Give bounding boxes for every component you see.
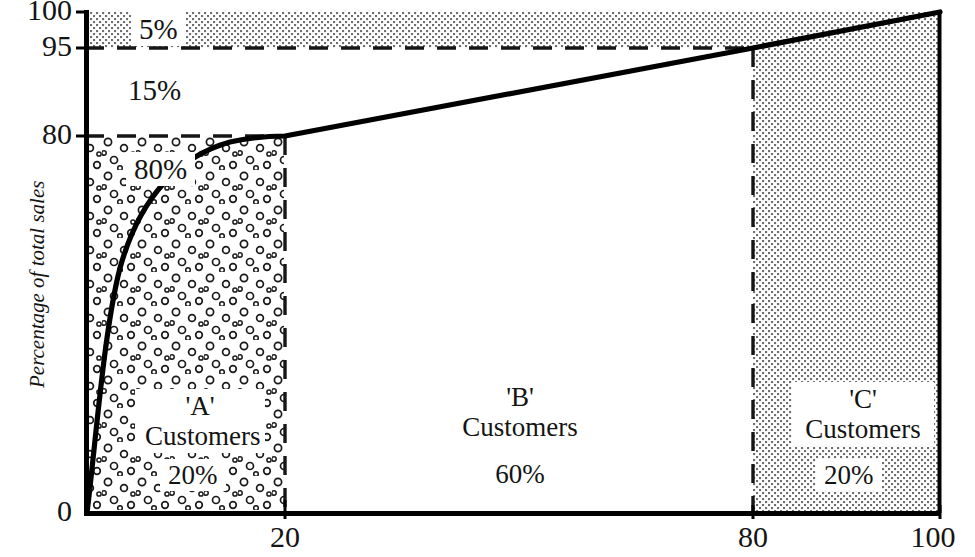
segment-b-kind: Customers [455,412,585,442]
segment-a-name: 'A' [145,391,255,421]
segment-a-share: 20% [160,459,226,491]
y-tick-label-0: 0 [0,494,72,528]
y-axis-title: Percentage of total sales [26,181,50,388]
band-top-label: 5% [131,12,186,46]
segment-b-label: 'B' Customers [455,382,585,442]
x-tick-label-100: 100 [893,520,973,554]
segment-b-share: 60% [455,459,585,489]
x-tick-label-20: 20 [245,520,325,554]
y-tick-label-100: 100 [0,0,72,27]
x-tick-label-80: 80 [713,520,793,554]
segment-c-label: 'C' Customers [792,382,934,446]
segment-a-label: 'A' Customers [135,389,265,453]
y-tick-label-95: 95 [0,29,72,63]
abc-analysis-chart: Percentage of total sales 100 95 80 0 20… [0,0,975,557]
y-tick-label-80: 80 [0,117,72,151]
band-middle-label: 15% [128,74,181,106]
segment-c-kind: Customers [802,414,924,444]
segment-c-name: 'C' [802,384,924,414]
segment-a-kind: Customers [145,421,255,451]
segment-a-fill [87,136,284,513]
segment-c-share: 20% [816,459,882,491]
segment-b-name: 'B' [455,382,585,412]
band-bottom-label: 80% [126,152,195,186]
